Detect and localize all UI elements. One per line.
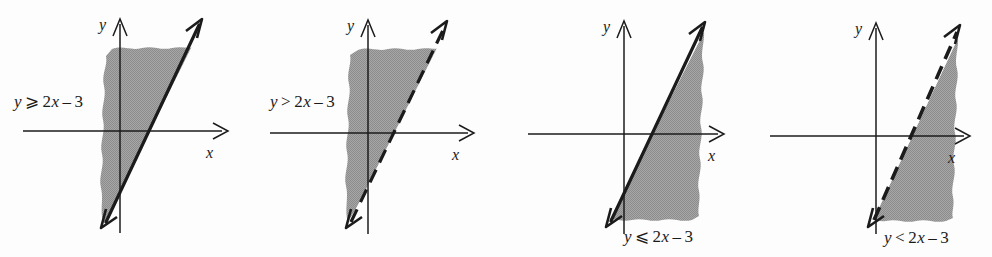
label-relation: ⩾ xyxy=(22,92,43,111)
label-lhs: y xyxy=(270,92,278,111)
label-minus: – xyxy=(925,228,940,247)
panel-4: x y y<2x–3 xyxy=(744,0,992,257)
label-coefficient: 2 xyxy=(653,227,662,246)
y-axis-label: y xyxy=(601,18,611,36)
panel-1: x y y⩾2x–3 xyxy=(0,0,248,257)
label-lhs: y xyxy=(14,92,22,111)
y-axis-label: y xyxy=(853,20,863,38)
inequality-label-2: y>2x–3 xyxy=(270,92,335,112)
y-axis xyxy=(869,23,883,234)
y-axis-label: y xyxy=(97,16,107,34)
label-variable: x xyxy=(52,92,60,111)
label-minus: – xyxy=(670,227,685,246)
label-variable: x xyxy=(303,92,311,111)
label-minus: – xyxy=(60,92,75,111)
label-lhs: y xyxy=(624,227,632,246)
inequality-label-3: y⩽2x–3 xyxy=(624,226,694,247)
x-axis-label: x xyxy=(205,144,213,161)
label-constant: 3 xyxy=(75,92,84,111)
label-lhs: y xyxy=(884,228,892,247)
label-constant: 3 xyxy=(685,227,694,246)
label-relation: ⩽ xyxy=(632,227,653,246)
label-relation: < xyxy=(892,228,908,247)
label-variable: x xyxy=(662,227,670,246)
label-constant: 3 xyxy=(326,92,335,111)
shaded-region xyxy=(100,47,200,224)
figure-sheet: x y y⩾2x–3 xyxy=(0,0,992,257)
label-coefficient: 2 xyxy=(908,228,917,247)
y-axis-label: y xyxy=(345,17,355,35)
panel-2: x y y>2x–3 xyxy=(248,0,496,257)
inequality-label-4: y<2x–3 xyxy=(884,228,949,248)
x-axis-label: x xyxy=(947,149,955,166)
label-variable: x xyxy=(917,228,925,247)
x-axis-label: x xyxy=(451,146,459,163)
x-axis-label: x xyxy=(707,147,715,164)
inequality-label-1: y⩾2x–3 xyxy=(14,91,84,112)
label-relation: > xyxy=(278,92,294,111)
panel-3: x y y⩽2x–3 xyxy=(496,0,744,257)
label-coefficient: 2 xyxy=(43,92,52,111)
label-minus: – xyxy=(311,92,326,111)
shaded-region xyxy=(345,48,446,222)
label-coefficient: 2 xyxy=(294,92,303,111)
label-constant: 3 xyxy=(940,228,949,247)
